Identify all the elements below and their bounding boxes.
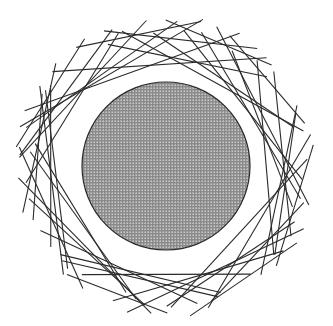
line-circle-graphic xyxy=(0,0,333,326)
chord-line xyxy=(230,36,305,124)
chord-line xyxy=(166,20,272,65)
geometric-artwork xyxy=(0,0,333,326)
dotted-disc xyxy=(82,82,250,250)
chord-line xyxy=(82,274,251,275)
chord-line xyxy=(61,255,221,293)
chord-line xyxy=(52,58,266,72)
chord-line xyxy=(190,243,297,316)
chord-line xyxy=(274,72,291,237)
chord-line xyxy=(62,261,217,297)
chord-line xyxy=(257,60,274,254)
